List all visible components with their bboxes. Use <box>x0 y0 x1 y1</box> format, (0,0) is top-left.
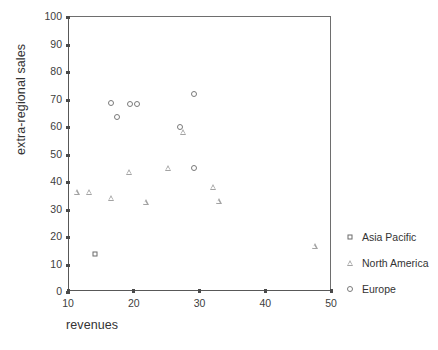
data-point <box>312 243 318 249</box>
data-point <box>191 91 197 97</box>
data-point <box>126 169 132 175</box>
y-tick-mark <box>66 126 70 129</box>
y-tick-mark <box>66 154 70 157</box>
x-tick-mark <box>67 289 70 293</box>
legend-label: North America <box>362 258 429 269</box>
data-point <box>165 165 171 171</box>
x-tick-label: 20 <box>128 298 140 309</box>
y-tick-label: 80 <box>50 66 62 77</box>
y-tick-label: 60 <box>50 121 62 132</box>
legend-item[interactable]: North America <box>344 250 436 276</box>
y-tick-label: 30 <box>50 203 62 214</box>
scatter-chart: 01020304050607080901001020304050 extra-r… <box>0 0 438 350</box>
y-tick-label: 0 <box>56 286 62 297</box>
legend-label: Europe <box>362 284 396 295</box>
data-point <box>108 195 114 201</box>
legend-item[interactable]: Europe <box>344 276 436 302</box>
y-tick-mark <box>66 16 70 19</box>
x-tick-label: 10 <box>62 298 74 309</box>
y-tick-label: 100 <box>44 11 62 22</box>
plot-area: 01020304050607080901001020304050 <box>68 16 331 291</box>
y-tick-mark <box>66 99 70 102</box>
data-point <box>191 165 197 171</box>
x-tick-mark <box>264 289 267 293</box>
x-tick-label: 30 <box>194 298 206 309</box>
y-tick-mark <box>66 264 70 267</box>
data-point <box>177 124 183 130</box>
legend-label: Asia Pacific <box>362 232 416 243</box>
y-tick-mark <box>66 209 70 212</box>
legend-item[interactable]: Asia Pacific <box>344 224 436 250</box>
data-point <box>92 251 97 256</box>
y-tick-label: 10 <box>50 258 62 269</box>
data-point <box>108 100 114 106</box>
y-tick-label: 20 <box>50 231 62 242</box>
y-tick-label: 70 <box>50 93 62 104</box>
y-tick-mark <box>66 44 70 47</box>
x-tick-mark <box>132 289 135 293</box>
x-tick-mark <box>330 289 333 293</box>
data-point <box>127 101 133 107</box>
y-tick-mark <box>66 236 70 239</box>
chart-legend: Asia PacificNorth AmericaEurope <box>344 224 436 302</box>
data-point <box>210 184 216 190</box>
data-point <box>143 199 149 205</box>
legend-square-icon <box>344 231 356 243</box>
y-tick-mark <box>66 181 70 184</box>
data-point <box>216 198 222 204</box>
x-axis-title: revenues <box>66 318 118 332</box>
y-tick-label: 90 <box>50 38 62 49</box>
data-point <box>74 189 80 195</box>
y-tick-mark <box>66 71 70 74</box>
data-point <box>114 114 120 120</box>
data-point <box>134 101 140 107</box>
x-tick-label: 40 <box>259 298 271 309</box>
y-tick-label: 50 <box>50 148 62 159</box>
data-point <box>86 189 92 195</box>
y-axis-title: extra-regional sales <box>14 44 28 155</box>
legend-circle-icon <box>344 283 356 295</box>
x-tick-label: 50 <box>325 298 337 309</box>
x-tick-mark <box>198 289 201 293</box>
legend-triangle-icon <box>344 257 356 269</box>
y-tick-label: 40 <box>50 176 62 187</box>
